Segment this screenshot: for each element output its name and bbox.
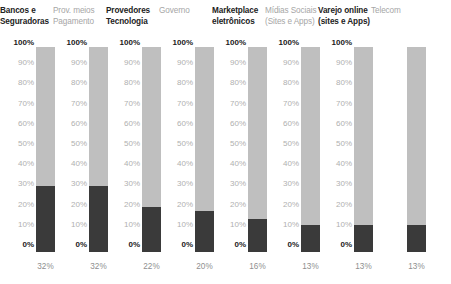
axis-tick-label: 30% xyxy=(265,180,299,188)
column-header: Prov. meiosPagamento xyxy=(53,6,109,27)
axis-tick-label: 100% xyxy=(265,39,299,47)
column-axis: 100%90%80%70%60%50%40%30%20%10%0% xyxy=(318,42,352,258)
axis-tick-label: 20% xyxy=(212,201,246,209)
axis-tick-label: 20% xyxy=(106,201,140,209)
column-header-line2: Pagamento xyxy=(53,17,109,28)
axis-tick-label: 60% xyxy=(106,120,140,128)
axis-tick-label: 100% xyxy=(318,39,352,47)
axis-tick-label: 100% xyxy=(53,39,87,47)
axis-tick-label: 0% xyxy=(106,241,140,249)
axis-tick-label: 100% xyxy=(212,39,246,47)
axis-tick-label: 50% xyxy=(159,140,193,148)
chart-column: Mídias Sociais(Sites e Apps)100%90%80%70… xyxy=(265,0,318,284)
column-header-line1: Mídias Sociais xyxy=(265,6,321,17)
column-header-line2: (Sites e Apps) xyxy=(265,17,321,28)
axis-tick-label: 90% xyxy=(53,59,87,67)
axis-tick-label: 40% xyxy=(159,160,193,168)
axis-tick-label: 10% xyxy=(265,221,299,229)
axis-tick-label: 30% xyxy=(53,180,87,188)
column-header-line2: Tecnologia xyxy=(106,17,162,28)
axis-tick-label: 0% xyxy=(53,241,87,249)
column-header-line2: eletrônicos xyxy=(212,17,268,28)
axis-tick-label: 20% xyxy=(159,201,193,209)
chart-column: ProvedoresTecnologia100%90%80%70%60%50%4… xyxy=(106,0,159,284)
axis-tick-label: 90% xyxy=(106,59,140,67)
axis-tick-label: 40% xyxy=(265,160,299,168)
axis-tick-label: 60% xyxy=(318,120,352,128)
axis-tick-label: 80% xyxy=(212,79,246,87)
axis-tick-label: 10% xyxy=(318,221,352,229)
axis-tick-label: 70% xyxy=(212,100,246,108)
axis-tick-label: 20% xyxy=(318,201,352,209)
column-header: Bancos eSeguradoras xyxy=(0,6,56,27)
axis-tick-label: 100% xyxy=(159,39,193,47)
axis-tick-label: 80% xyxy=(53,79,87,87)
column-axis: 100%90%80%70%60%50%40%30%20%10%0% xyxy=(265,42,299,258)
column-header: Varejo online(sites e Apps) xyxy=(318,6,374,27)
axis-tick-label: 30% xyxy=(212,180,246,188)
axis-tick-label: 20% xyxy=(53,201,87,209)
axis-tick-label: 30% xyxy=(106,180,140,188)
chart-column: Bancos eSeguradoras100%90%80%70%60%50%40… xyxy=(0,0,53,284)
column-header-line1: Governo xyxy=(159,6,215,17)
bar-value-label: 13% xyxy=(400,262,433,272)
axis-tick-label: 50% xyxy=(106,140,140,148)
chart-column: Prov. meiosPagamento100%90%80%70%60%50%4… xyxy=(53,0,106,284)
column-header: Mídias Sociais(Sites e Apps) xyxy=(265,6,321,27)
column-header-line1: Telecom xyxy=(371,6,427,17)
column-axis: 100%90%80%70%60%50%40%30%20%10%0% xyxy=(53,42,87,258)
axis-tick-label: 60% xyxy=(265,120,299,128)
axis-tick-label: 50% xyxy=(212,140,246,148)
axis-tick-label: 30% xyxy=(318,180,352,188)
axis-tick-label: 10% xyxy=(212,221,246,229)
axis-tick-label: 70% xyxy=(159,100,193,108)
axis-tick-label: 30% xyxy=(0,180,34,188)
column-axis: 100%90%80%70%60%50%40%30%20%10%0% xyxy=(0,42,34,258)
axis-tick-label: 10% xyxy=(0,221,34,229)
column-header-line1: Prov. meios xyxy=(53,6,109,17)
axis-tick-label: 90% xyxy=(212,59,246,67)
column-header-line1: Marketplace xyxy=(212,6,268,17)
axis-tick-label: 50% xyxy=(0,140,34,148)
axis-tick-label: 50% xyxy=(318,140,352,148)
axis-tick-label: 10% xyxy=(106,221,140,229)
axis-tick-label: 10% xyxy=(159,221,193,229)
axis-tick-label: 0% xyxy=(318,241,352,249)
axis-tick-label: 0% xyxy=(265,241,299,249)
axis-tick-label: 50% xyxy=(265,140,299,148)
axis-tick-label: 80% xyxy=(0,79,34,87)
axis-tick-label: 70% xyxy=(318,100,352,108)
axis-tick-label: 40% xyxy=(212,160,246,168)
column-header-line1: Bancos e xyxy=(0,6,56,17)
axis-tick-label: 10% xyxy=(53,221,87,229)
axis-tick-label: 80% xyxy=(318,79,352,87)
axis-tick-label: 40% xyxy=(106,160,140,168)
axis-tick-label: 90% xyxy=(159,59,193,67)
column-header-line2: Seguradoras xyxy=(0,17,56,28)
column-header: ProvedoresTecnologia xyxy=(106,6,162,27)
axis-tick-label: 40% xyxy=(53,160,87,168)
axis-tick-label: 0% xyxy=(0,241,34,249)
column-header: Marketplaceeletrônicos xyxy=(212,6,268,27)
axis-tick-label: 80% xyxy=(265,79,299,87)
axis-tick-label: 100% xyxy=(106,39,140,47)
column-header-line2: (sites e Apps) xyxy=(318,17,374,28)
column-axis: 100%90%80%70%60%50%40%30%20%10%0% xyxy=(106,42,140,258)
chart-column: Governo100%90%80%70%60%50%40%30%20%10%0%… xyxy=(159,0,212,284)
bar-track xyxy=(407,47,426,252)
column-header: Governo xyxy=(159,6,215,17)
gauge-bar-chart: Bancos eSeguradoras100%90%80%70%60%50%40… xyxy=(0,0,451,284)
axis-tick-label: 50% xyxy=(53,140,87,148)
column-header-line1: Varejo online xyxy=(318,6,374,17)
axis-tick-label: 70% xyxy=(53,100,87,108)
axis-tick-label: 60% xyxy=(0,120,34,128)
axis-tick-label: 60% xyxy=(159,120,193,128)
axis-tick-label: 70% xyxy=(106,100,140,108)
column-axis: 100%90%80%70%60%50%40%30%20%10%0% xyxy=(159,42,193,258)
column-header-line1: Provedores xyxy=(106,6,162,17)
axis-tick-label: 80% xyxy=(159,79,193,87)
axis-tick-label: 60% xyxy=(212,120,246,128)
axis-tick-label: 90% xyxy=(0,59,34,67)
axis-tick-label: 40% xyxy=(0,160,34,168)
column-header: Telecom xyxy=(371,6,427,17)
